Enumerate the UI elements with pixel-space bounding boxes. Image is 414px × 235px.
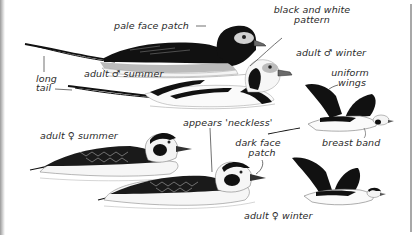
female-flight-illustration	[292, 158, 386, 205]
label-adult-female-summer: adult ♀ summer	[40, 131, 118, 141]
label-black-white-pattern-line2: pattern	[282, 15, 342, 25]
illustration-plate: pale face patch black and white pattern …	[0, 0, 414, 235]
drake-flight-illustration	[268, 84, 394, 138]
label-pale-face-patch: pale face patch	[114, 21, 189, 31]
label-adult-female-winter: adult ♀ winter	[244, 211, 313, 221]
label-breast-band: breast band	[322, 138, 380, 148]
label-uniform-wings-line2: wings	[322, 78, 382, 88]
label-dark-face-patch-line2: patch	[236, 148, 288, 158]
label-appears-neckless: appears 'neckless'	[183, 118, 272, 128]
label-adult-male-summer: adult ♂ summer	[84, 69, 163, 79]
label-long-tail-line2: tail	[36, 83, 51, 93]
label-adult-male-winter: adult ♂ winter	[296, 48, 366, 58]
